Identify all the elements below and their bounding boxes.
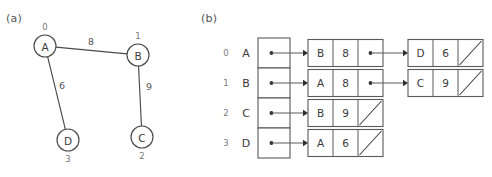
- adjacency-node-vertex: D: [416, 47, 424, 59]
- graph-node-index: 0: [42, 22, 47, 32]
- graph-edge-a-d: 6: [48, 57, 66, 130]
- adjacency-node-0-1[interactable]: D6: [408, 40, 483, 67]
- graph-node-b[interactable]: B1: [127, 31, 149, 66]
- adjacency-list-rows-group: 0AB8D61BA8C92CB93DA6: [223, 38, 483, 158]
- graph-edge-a-b: 8: [56, 36, 127, 54]
- adjacency-node-weight: 9: [342, 107, 349, 119]
- adjacency-node-vertex: B: [317, 47, 324, 59]
- graph-node-d[interactable]: D3: [57, 129, 79, 164]
- graph-node-letter: C: [138, 132, 145, 144]
- row-vertex-label: A: [242, 47, 250, 60]
- adjacency-list-row-d: 3DA6: [223, 128, 383, 158]
- graph-svg: 869 A0B1C2D3: [0, 0, 200, 177]
- graph-node-letter: D: [64, 135, 72, 147]
- arrow-head: [303, 80, 308, 86]
- adjacency-node-weight: 8: [342, 77, 349, 89]
- graph-node-index: 1: [135, 31, 140, 41]
- adjacency-list-panel: 0AB8D61BA8C92CB93DA6: [200, 0, 492, 177]
- graph-edge-weight: 6: [59, 80, 65, 91]
- arrow-head: [303, 50, 308, 56]
- row-index-label: 3: [223, 138, 228, 148]
- graph-node-letter: A: [41, 41, 49, 53]
- graph-node-index: 3: [65, 154, 70, 164]
- graph-edge-b-c: 9: [139, 66, 152, 126]
- graph-panel: 869 A0B1C2D3: [0, 0, 200, 177]
- row-vertex-label: D: [242, 137, 250, 150]
- adjacency-node-vertex: C: [417, 77, 424, 89]
- adjacency-node-weight: 6: [342, 137, 349, 149]
- graph-node-letter: B: [134, 50, 141, 62]
- arrow-head: [403, 50, 408, 56]
- adjacency-node-weight: 9: [442, 77, 449, 89]
- arrow-head: [303, 110, 308, 116]
- adjacency-node-2-0[interactable]: B9: [308, 100, 383, 127]
- adjacency-list-row-b: 1BA8C9: [223, 68, 483, 98]
- graph-node-c[interactable]: C2: [131, 126, 153, 161]
- adjacency-list-row-c: 2CB9: [223, 98, 383, 128]
- arrow-head: [303, 140, 308, 146]
- row-index-label: 2: [223, 108, 228, 118]
- graph-node-index: 2: [139, 151, 144, 161]
- graph-edge-line: [56, 47, 127, 54]
- row-vertex-label: B: [242, 77, 250, 90]
- adjacency-list-svg: 0AB8D61BA8C92CB93DA6: [200, 0, 492, 177]
- adjacency-node-vertex: B: [317, 107, 324, 119]
- row-index-label: 0: [223, 48, 228, 58]
- adjacency-node-weight: 8: [342, 47, 349, 59]
- row-vertex-label: C: [242, 107, 250, 120]
- arrow-head: [403, 80, 408, 86]
- adjacency-list-row-a: 0AB8D6: [223, 38, 483, 68]
- figure-root: (a) (b) 869 A0B1C2D3 0AB8D61BA8C92CB93DA…: [0, 0, 492, 177]
- graph-node-a[interactable]: A0: [34, 22, 56, 57]
- adjacency-node-3-0[interactable]: A6: [308, 130, 383, 157]
- adjacency-node-1-1[interactable]: C9: [408, 70, 483, 97]
- graph-edge-line: [48, 57, 66, 130]
- graph-edge-line: [139, 66, 142, 126]
- graph-edge-weight: 8: [88, 36, 94, 47]
- graph-edge-weight: 9: [146, 81, 152, 92]
- row-index-label: 1: [223, 78, 228, 88]
- adjacency-node-vertex: A: [317, 77, 325, 89]
- adjacency-node-vertex: A: [317, 137, 325, 149]
- adjacency-node-weight: 6: [442, 47, 449, 59]
